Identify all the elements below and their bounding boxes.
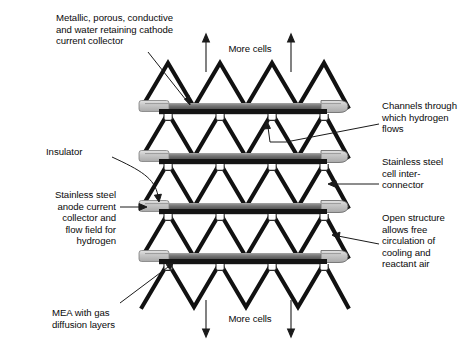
label-cell-interconnector: Stainless steel cell inter- connector [382, 156, 474, 191]
label-more-cells-top: More cells [213, 43, 287, 55]
label-anode-current-collector: Stainless steel anode current collector … [8, 189, 116, 247]
zigzag-layer-3 [142, 163, 348, 207]
hydrogen-channels-plate-3 [164, 214, 328, 220]
label-insulator: Insulator [46, 146, 132, 158]
hydrogen-channels-plate-2 [164, 164, 328, 170]
arrow-down-left [203, 300, 210, 337]
zigzag-layer-2 [142, 113, 348, 157]
label-cathode-current-collector: Metallic, porous, conductive and water r… [56, 12, 228, 47]
hydrogen-channels-plate-4 [164, 264, 328, 270]
zigzag-layer-5 [142, 263, 348, 307]
label-hydrogen-channels: Channels through which hydrogen flows [382, 100, 474, 135]
zigzag-layer-1 [142, 63, 348, 107]
arrow-down-right [288, 300, 295, 337]
leader-insulator [112, 157, 161, 202]
zigzag-layer-4 [142, 213, 348, 257]
leader-cathode [148, 52, 190, 105]
label-more-cells-bottom: More cells [213, 313, 287, 325]
arrow-up-right [288, 34, 295, 72]
label-mea-gas-diffusion-layers: MEA with gas diffusion layers [52, 307, 168, 330]
leader-interconnector [328, 181, 379, 188]
zigzag-corrugation-group [142, 63, 348, 307]
hydrogen-channels-plate-1 [164, 114, 328, 120]
fuel-cell-diagram: Metallic, porous, conductive and water r… [0, 0, 476, 352]
label-open-structure: Open structure allows free circulation o… [382, 212, 474, 270]
